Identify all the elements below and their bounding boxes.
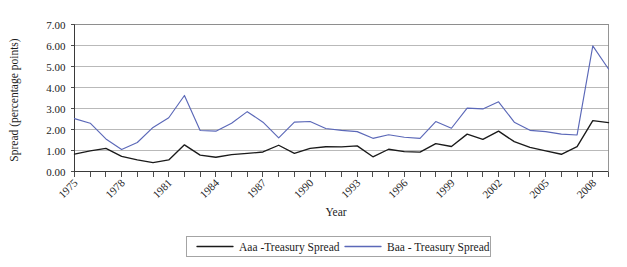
y-tick-label: 6.00 [46,40,66,52]
x-axis-tickmarks [75,172,609,177]
x-axis-tick-labels: 1975197819811984198719901993199619992002… [56,176,599,200]
y-axis-title: Spread (percentage points) [8,38,21,161]
x-tick-label: 1996 [386,176,410,200]
x-tick-label: 2008 [574,176,598,200]
x-axis-title: Year [325,206,346,218]
x-tick-label: 1975 [56,176,80,200]
legend-label-aaa: Aaa -Treasury Spread [239,241,340,254]
x-tick-label: 1990 [291,176,315,200]
y-tick-label: 1.00 [46,145,66,157]
y-tick-label: 4.00 [46,82,66,94]
chart-legend: Aaa -Treasury Spread Baa - Treasury Spre… [187,237,491,257]
series-line-baa [75,46,609,150]
x-tick-label: 1993 [339,176,363,200]
x-tick-label: 1981 [150,176,174,200]
y-axis-tick-labels: 0.001.002.003.004.005.006.007.00 [46,19,74,178]
x-tick-label: 1984 [197,176,221,200]
x-tick-label: 1987 [244,176,268,200]
y-tick-label: 3.00 [46,103,66,115]
x-tick-label: 2005 [527,176,551,200]
x-tick-label: 2002 [480,176,504,200]
x-tick-label: 1978 [103,176,127,200]
y-tick-label: 2.00 [46,124,66,136]
data-series [75,46,609,163]
y-tick-label: 5.00 [46,61,66,73]
chart-figure: 0.001.002.003.004.005.006.007.00 1975197… [0,0,627,267]
line-chart: 0.001.002.003.004.005.006.007.00 1975197… [0,0,627,267]
y-tick-label: 0.00 [46,166,66,178]
x-tick-label: 1999 [433,176,457,200]
y-tick-label: 7.00 [46,19,66,31]
legend-label-baa: Baa - Treasury Spread [387,241,490,254]
gridlines [75,25,609,151]
axis-lines [75,25,609,172]
